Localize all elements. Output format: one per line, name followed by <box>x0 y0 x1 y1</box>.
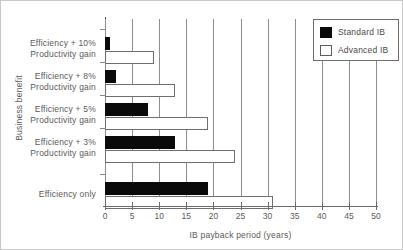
legend-swatch-standard-icon <box>320 27 332 38</box>
category-label-line: Efficiency + 5% <box>0 104 96 115</box>
y-axis-tick <box>100 95 106 96</box>
gridline <box>213 19 214 205</box>
category-label-line: Productivity gain <box>0 148 96 159</box>
bar-advanced <box>105 51 154 64</box>
gridline <box>295 19 296 205</box>
x-axis-tick-label: 35 <box>280 211 310 221</box>
legend-swatch-advanced-icon <box>320 45 332 56</box>
legend-label-standard: Standard IB <box>338 27 385 37</box>
x-axis-tick <box>186 202 187 210</box>
y-axis-tick <box>100 29 106 30</box>
x-axis-tick-label: 5 <box>117 211 147 221</box>
x-axis-tick <box>159 202 160 210</box>
y-axis-tick <box>100 174 106 175</box>
y-axis-tick <box>100 62 106 63</box>
gridline <box>241 19 242 205</box>
x-axis-tick <box>241 202 242 210</box>
x-axis-tick <box>268 202 269 210</box>
x-axis-tick <box>105 202 106 210</box>
category-label-line: Efficiency only <box>0 189 96 200</box>
legend-item-advanced: Advanced IB <box>320 43 388 57</box>
bar-advanced <box>105 150 235 163</box>
x-axis-tick-label: 50 <box>361 211 391 221</box>
chart-figure: Business benefit Efficiency + 10%Product… <box>0 0 403 250</box>
category-label-line: Efficiency + 3% <box>0 137 96 148</box>
x-axis-tick <box>132 202 133 210</box>
category-label-line: Efficiency + 8% <box>0 71 96 82</box>
bar-standard <box>105 103 148 116</box>
x-axis-tick <box>349 202 350 210</box>
legend-label-advanced: Advanced IB <box>338 45 388 55</box>
x-axis-tick-label: 20 <box>198 211 228 221</box>
x-axis-tick-label: 15 <box>171 211 201 221</box>
x-axis-tick-label: 10 <box>144 211 174 221</box>
category-label-line: Productivity gain <box>0 82 96 93</box>
gridline <box>268 19 269 205</box>
legend-item-standard: Standard IB <box>320 25 385 39</box>
category-label: Efficiency + 8%Productivity gain <box>0 71 96 93</box>
category-label: Efficiency + 5%Productivity gain <box>0 104 96 126</box>
bar-standard <box>105 182 208 195</box>
gridline <box>159 19 160 205</box>
category-label-line: Productivity gain <box>0 115 96 126</box>
category-label-line: Efficiency + 10% <box>0 38 96 49</box>
category-label: Efficiency only <box>0 189 96 200</box>
x-axis-tick <box>322 202 323 210</box>
bar-advanced <box>105 117 208 130</box>
category-label: Efficiency + 3%Productivity gain <box>0 137 96 159</box>
x-axis-title: IB payback period (years) <box>105 230 376 240</box>
category-label: Efficiency + 10%Productivity gain <box>0 38 96 60</box>
x-axis-tick <box>213 202 214 210</box>
category-label-line: Productivity gain <box>0 49 96 60</box>
x-axis-tick-label: 45 <box>334 211 364 221</box>
y-axis-tick <box>100 128 106 129</box>
x-axis-tick-label: 0 <box>90 211 120 221</box>
x-axis-tick-label: 25 <box>226 211 256 221</box>
bar-standard <box>105 70 116 83</box>
x-axis-tick-label: 30 <box>253 211 283 221</box>
bar-standard <box>105 37 110 50</box>
gridline <box>186 19 187 205</box>
bar-advanced <box>105 84 175 97</box>
x-axis-tick-label: 40 <box>307 211 337 221</box>
chart-legend: Standard IB Advanced IB <box>313 19 399 61</box>
x-axis-tick <box>295 202 296 210</box>
x-axis-tick <box>376 202 377 210</box>
bar-standard <box>105 136 175 149</box>
